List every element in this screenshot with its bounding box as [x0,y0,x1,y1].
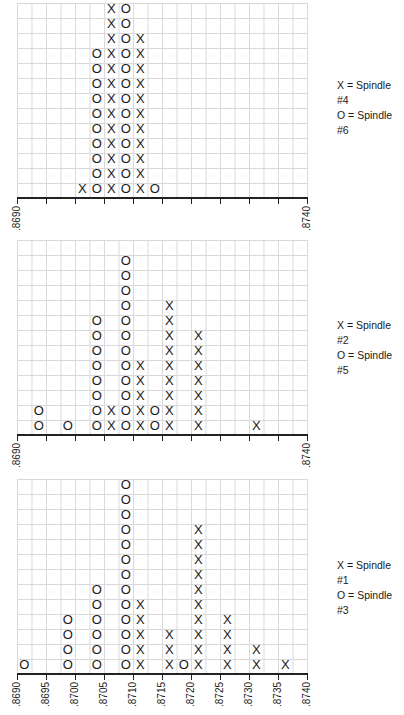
o-marker: O [119,373,134,388]
x-marker: X [162,373,177,388]
x-tick [162,675,163,680]
x-marker: X [162,403,177,418]
x-tick-label: .8690 [11,206,22,231]
x-tick [220,436,221,441]
o-marker: O [90,106,105,121]
legend-x: X = Spindle #1 [337,558,404,588]
o-marker: O [90,627,105,642]
o-marker: O [119,283,134,298]
o-marker: O [119,627,134,642]
x-marker: X [104,136,119,151]
x-marker: X [133,166,148,181]
x-tick-label: .8690 [11,682,22,707]
o-marker: O [90,373,105,388]
o-marker: O [119,151,134,166]
x-marker: X [191,328,206,343]
o-marker: O [119,313,134,328]
x-tick-label: .8730 [243,682,254,707]
o-marker: O [119,16,134,31]
x-tick-label: .8735 [272,682,283,707]
o-marker: O [90,61,105,76]
x-marker: X [104,151,119,166]
o-marker: O [90,582,105,597]
x-tick [17,436,18,441]
x-marker: X [75,181,90,196]
x-tick [278,199,279,204]
x-marker: X [220,627,235,642]
o-marker: O [90,76,105,91]
x-marker: X [162,388,177,403]
x-marker: X [133,388,148,403]
o-marker: O [119,298,134,313]
x-tick [191,675,192,680]
x-marker: X [162,627,177,642]
o-marker: O [119,642,134,657]
x-tick [162,436,163,441]
o-marker: O [90,328,105,343]
o-marker: O [90,46,105,61]
o-marker: O [119,136,134,151]
o-marker: O [119,507,134,522]
o-marker: O [90,91,105,106]
x-marker: X [104,166,119,181]
x-marker: X [191,418,206,433]
x-marker: X [191,373,206,388]
o-marker: O [119,403,134,418]
x-marker: X [191,358,206,373]
x-marker: X [191,642,206,657]
legend: X = Spindle #2 O = Spindle #5 [337,318,404,378]
plot-area: XXXXXXXXXXXXXXXXXXXXXXXXOOOOOOOOOOOOOOOO… [17,240,307,440]
x-marker: X [191,627,206,642]
o-marker: O [119,253,134,268]
o-marker: O [148,418,163,433]
x-marker: X [133,597,148,612]
x-marker: X [133,136,148,151]
o-marker: O [119,477,134,492]
o-marker: O [119,31,134,46]
o-marker: O [119,582,134,597]
o-marker: O [119,181,134,196]
x-marker: X [133,403,148,418]
x-marker: X [133,121,148,136]
o-marker: O [61,612,76,627]
x-tick [162,199,163,204]
x-marker: X [133,46,148,61]
x-marker: X [191,582,206,597]
x-tick-label: .8720 [185,682,196,707]
x-tick [46,199,47,204]
x-tick-label: .8695 [40,682,51,707]
x-marker: X [133,91,148,106]
x-tick-label: .8740 [301,443,312,468]
o-marker: O [119,46,134,61]
x-marker: X [133,31,148,46]
x-marker: X [104,16,119,31]
x-marker: X [162,343,177,358]
x-marker: X [249,642,264,657]
x-tick [17,675,18,680]
x-marker: X [191,552,206,567]
o-marker: O [90,612,105,627]
x-marker: X [133,642,148,657]
o-marker: O [119,418,134,433]
x-tick [133,675,134,680]
o-marker: O [90,388,105,403]
o-marker: O [90,136,105,151]
x-tick [278,675,279,680]
x-tick [249,199,250,204]
x-tick [17,199,18,204]
x-tick-label: .8690 [11,443,22,468]
x-marker: X [133,627,148,642]
x-marker: X [278,657,293,672]
x-marker: X [162,418,177,433]
x-marker: X [133,657,148,672]
x-tick [220,675,221,680]
legend-x: X = Spindle #2 [337,318,404,348]
legend-x: X = Spindle #4 [337,78,404,108]
x-marker: X [104,31,119,46]
o-marker: O [119,91,134,106]
x-tick [75,675,76,680]
x-tick [249,436,250,441]
x-marker: X [162,657,177,672]
x-tick [278,436,279,441]
x-marker: X [191,343,206,358]
